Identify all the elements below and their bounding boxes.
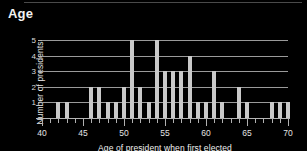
chart-screenshot: Age Number of presidents Age of presiden… [0,0,307,151]
x-tick-minor [190,119,191,123]
x-tick-label: 70 [283,128,292,138]
top-divider [24,2,302,3]
x-axis-title: Age of president when first elected [42,143,288,151]
x-tick-minor [58,119,59,123]
y-tick-mark [38,87,42,88]
x-tick-minor [173,119,174,123]
y-tick-mark [38,40,42,41]
histogram-bar [89,87,93,118]
x-tick-major [247,119,248,126]
x-tick-minor [67,119,68,123]
gridline [42,56,288,57]
x-tick-label: 65 [242,128,251,138]
histogram-bar [171,71,175,118]
y-tick-mark [38,56,42,57]
histogram-bar [188,56,192,118]
x-tick-label: 45 [78,128,87,138]
histogram-bar [212,71,216,118]
x-tick-minor [272,119,273,123]
x-tick-minor [222,119,223,123]
y-axis-title: Number of presidents [35,41,45,124]
x-tick-minor [239,119,240,123]
y-tick-label: 2 [22,82,36,91]
histogram-bar [278,102,282,118]
x-tick-minor [108,119,109,123]
histogram-bar [97,87,101,118]
y-tick-mark [38,71,42,72]
x-tick-minor [255,119,256,123]
x-tick-major [124,119,125,126]
histogram-bar [270,102,274,118]
histogram-bar [220,102,224,118]
x-tick-minor [99,119,100,123]
histogram-bar [114,102,118,118]
x-tick-major [42,119,43,126]
histogram-bar [122,87,126,118]
histogram-bar [155,40,159,118]
x-tick-minor [140,119,141,123]
x-tick-minor [280,119,281,123]
histogram-bar [237,87,241,118]
x-tick-minor [91,119,92,123]
x-tick-minor [263,119,264,123]
y-tick-label: 4 [22,51,36,60]
x-tick-minor [50,119,51,123]
histogram-bar [286,102,290,118]
histogram-plot-area: Number of presidents Age of president wh… [42,40,288,118]
x-tick-label: 55 [160,128,169,138]
x-tick-label: 50 [119,128,128,138]
page-title: Age [8,6,33,21]
x-tick-minor [116,119,117,123]
x-tick-major [206,119,207,126]
histogram-bar [138,87,142,118]
histogram-bar [56,102,60,118]
histogram-bar [163,71,167,118]
y-tick-label: 5 [22,36,36,45]
x-tick-major [165,119,166,126]
gridline [42,40,288,41]
x-tick-major [83,119,84,126]
x-tick-label: 40 [37,128,46,138]
x-tick-minor [214,119,215,123]
histogram-bar [106,102,110,118]
x-tick-minor [132,119,133,123]
histogram-bar [196,102,200,118]
x-tick-minor [181,119,182,123]
x-tick-label: 60 [201,128,210,138]
histogram-bar [147,102,151,118]
histogram-bar [204,102,208,118]
histogram-bar [245,102,249,118]
x-tick-minor [157,119,158,123]
y-tick-mark [38,102,42,103]
x-tick-minor [198,119,199,123]
histogram-bar [130,40,134,118]
y-tick-label: 1 [22,98,36,107]
x-tick-minor [149,119,150,123]
y-tick-label: 3 [22,67,36,76]
x-tick-major [288,119,289,126]
x-tick-minor [231,119,232,123]
histogram-bar [65,102,69,118]
x-tick-minor [75,119,76,123]
histogram-bar [179,71,183,118]
